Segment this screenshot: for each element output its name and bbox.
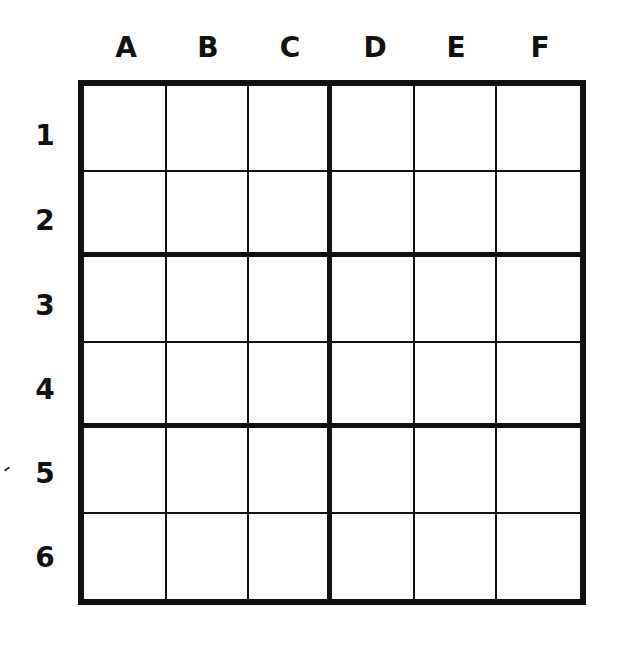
cell-e6[interactable] — [415, 514, 498, 600]
cell-e2[interactable] — [415, 172, 498, 258]
cell-c4[interactable] — [249, 343, 332, 429]
cell-c3[interactable] — [249, 257, 332, 343]
column-label-a: A — [84, 30, 168, 66]
cell-d1[interactable] — [332, 86, 415, 172]
cell-a5[interactable] — [84, 428, 167, 514]
cell-f1[interactable] — [497, 86, 580, 172]
cell-a4[interactable] — [84, 343, 167, 429]
cell-e5[interactable] — [415, 428, 498, 514]
cell-a2[interactable] — [84, 172, 167, 258]
cell-b4[interactable] — [167, 343, 250, 429]
column-label-d: D — [333, 30, 417, 66]
cell-f6[interactable] — [497, 514, 580, 600]
row-label-1: 1 — [30, 118, 60, 154]
cell-d4[interactable] — [332, 343, 415, 429]
stray-pencil-mark — [4, 466, 10, 471]
cell-b6[interactable] — [167, 514, 250, 600]
cell-e1[interactable] — [415, 86, 498, 172]
cell-c2[interactable] — [249, 172, 332, 258]
cell-b1[interactable] — [167, 86, 250, 172]
row-label-4: 4 — [30, 372, 60, 408]
column-label-f: F — [498, 30, 582, 66]
cell-a6[interactable] — [84, 514, 167, 600]
cell-a3[interactable] — [84, 257, 167, 343]
cell-b2[interactable] — [167, 172, 250, 258]
cell-a1[interactable] — [84, 86, 167, 172]
row-label-5: 5 — [30, 456, 60, 492]
cell-d2[interactable] — [332, 172, 415, 258]
column-label-c: C — [248, 30, 332, 66]
cell-c1[interactable] — [249, 86, 332, 172]
cell-d3[interactable] — [332, 257, 415, 343]
cell-f4[interactable] — [497, 343, 580, 429]
column-label-b: B — [166, 30, 250, 66]
cell-c6[interactable] — [249, 514, 332, 600]
cell-d6[interactable] — [332, 514, 415, 600]
cell-e3[interactable] — [415, 257, 498, 343]
cell-d5[interactable] — [332, 428, 415, 514]
row-label-3: 3 — [30, 288, 60, 324]
cell-f3[interactable] — [497, 257, 580, 343]
cell-c5[interactable] — [249, 428, 332, 514]
cell-e4[interactable] — [415, 343, 498, 429]
row-label-6: 6 — [30, 540, 60, 576]
row-label-2: 2 — [30, 203, 60, 239]
sudoku-grid — [78, 80, 586, 605]
cell-b3[interactable] — [167, 257, 250, 343]
cell-f2[interactable] — [497, 172, 580, 258]
column-label-e: E — [414, 30, 498, 66]
cell-b5[interactable] — [167, 428, 250, 514]
cell-f5[interactable] — [497, 428, 580, 514]
